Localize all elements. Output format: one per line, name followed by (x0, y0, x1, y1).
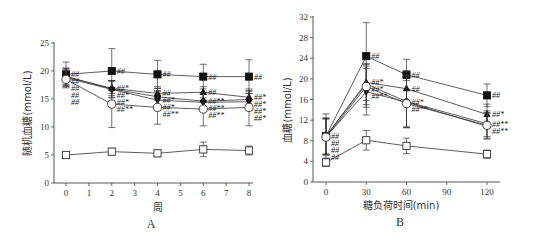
y-tick-label: 10 (40, 122, 50, 132)
open-circle-marker (108, 100, 116, 108)
open-square-marker (62, 151, 69, 158)
chart-a-series: ##############*##*##*##**######*##*##**#… (62, 49, 266, 159)
chart-a-x-axis-title: 周 (153, 202, 163, 213)
chart-b-series: ############*##*##**######*##**####*##**… (322, 23, 508, 167)
y-tick-label: 20 (299, 74, 309, 84)
significance-mark: ##** (117, 105, 133, 114)
y-tick-label: 8 (304, 136, 309, 146)
significance-annotations: ##############*##*##*##**######*##*##**#… (71, 67, 266, 123)
y-tick-label: 0 (45, 178, 50, 188)
significance-mark: ## (208, 73, 217, 82)
y-tick-label: 16 (299, 95, 309, 105)
x-tick-label: 3 (132, 188, 137, 198)
filled-square-marker (483, 92, 490, 99)
y-tick-label: 5 (45, 150, 50, 160)
x-tick-label: 7 (224, 188, 229, 198)
chart-a-panel-label: A (147, 217, 156, 231)
y-tick-label: 25 (40, 38, 50, 48)
significance-mark: ##** (163, 110, 179, 119)
y-tick-label: 12 (299, 115, 308, 125)
x-tick-label: 90 (442, 187, 452, 197)
significance-annotations: ############*##*##**######*##**####*##**… (331, 52, 508, 162)
open-square-marker (483, 151, 490, 158)
open-square-marker (200, 146, 207, 153)
open-square-marker (322, 159, 329, 166)
open-circle-marker (199, 105, 207, 113)
significance-mark: ##* (492, 110, 504, 119)
open-square-marker (245, 147, 252, 154)
open-circle-marker (402, 100, 410, 108)
filled-square-marker (245, 73, 252, 80)
significance-mark: ## (254, 73, 263, 82)
chart-panel-b: 0481216202428320306090120 ############*#… (281, 12, 508, 229)
open-circle-marker (245, 103, 253, 111)
significance-mark: ##** (371, 92, 387, 101)
y-tick-label: 32 (299, 12, 308, 22)
open-square-marker (363, 137, 370, 144)
chart-b-axes: 0481216202428320306090120 (299, 12, 500, 197)
x-tick-label: 0 (324, 187, 329, 197)
filled-square-marker (108, 67, 115, 74)
x-tick-label: 4 (155, 188, 160, 198)
open-circle-marker (153, 103, 161, 111)
y-tick-label: 20 (40, 66, 50, 76)
significance-mark: ##** (492, 127, 508, 136)
open-circle-marker (483, 121, 491, 129)
series-open-square (322, 130, 490, 166)
y-tick-label: 4 (304, 156, 309, 166)
x-tick-label: 6 (201, 188, 206, 198)
significance-mark: ## (331, 153, 340, 162)
significance-mark: ## (208, 88, 217, 97)
filled-square-marker (200, 73, 207, 80)
series-open-square (62, 142, 252, 158)
significance-mark: ## (492, 91, 501, 100)
open-circle-marker (322, 133, 330, 141)
chart-b-y-axis-title: 血糖(mmol/L) (281, 77, 293, 142)
open-circle-marker (62, 75, 70, 83)
significance-mark: ## (71, 98, 80, 107)
significance-mark: ## (412, 85, 421, 94)
x-tick-label: 120 (480, 187, 494, 197)
chart-a-y-axis-title: 随机血糖(mmol/L) (21, 70, 33, 155)
figure: 0510152025012345678 ##############*##*##… (0, 0, 537, 244)
open-square-marker (154, 150, 161, 157)
chart-b-x-axis-title: 糖负荷时间(min) (363, 199, 440, 211)
x-tick-label: 60 (402, 187, 412, 197)
x-tick-label: 2 (110, 188, 115, 198)
x-tick-label: 1 (87, 188, 92, 198)
x-tick-label: 0 (64, 188, 69, 198)
significance-mark: ## (412, 71, 421, 80)
y-tick-label: 0 (304, 177, 309, 187)
chart-panel-a: 0510152025012345678 ##############*##*##… (21, 38, 266, 231)
significance-mark: ##** (412, 105, 428, 114)
x-tick-label: 8 (247, 188, 252, 198)
filled-square-marker (154, 71, 161, 78)
significance-mark: ## (371, 52, 380, 61)
open-square-marker (108, 148, 115, 155)
chart-b-panel-label: B (396, 215, 404, 229)
y-tick-label: 28 (299, 33, 309, 43)
significance-mark: ##** (208, 111, 224, 120)
significance-mark: ##* (254, 114, 266, 123)
x-tick-label: 30 (362, 187, 372, 197)
significance-mark: ## (117, 67, 126, 76)
y-tick-label: 15 (40, 94, 50, 104)
open-circle-marker (362, 83, 370, 91)
x-tick-label: 5 (178, 188, 183, 198)
open-square-marker (403, 142, 410, 149)
filled-square-marker (363, 53, 370, 60)
significance-mark: ## (163, 70, 172, 79)
y-tick-label: 24 (299, 53, 309, 63)
